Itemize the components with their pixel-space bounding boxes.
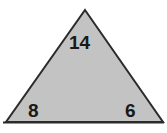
label-bottom-left-value: 8	[28, 101, 39, 120]
triangle-shape	[0, 0, 167, 133]
label-bottom-right-value: 6	[125, 101, 136, 120]
triangle-figure: 14 8 6	[0, 0, 167, 133]
label-apex-value: 14	[69, 33, 90, 52]
